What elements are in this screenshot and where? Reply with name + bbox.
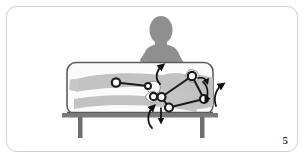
joint-marker-ankle <box>145 83 151 89</box>
figure-number: 5 <box>283 135 289 146</box>
joint-marker-distal-limb-left <box>112 78 120 86</box>
figure-container: 5 <box>0 0 304 158</box>
joint-marker-knee <box>158 93 166 101</box>
left-table-leg <box>78 117 83 138</box>
figure-illustration <box>0 0 304 158</box>
joint-marker-hip <box>165 104 173 112</box>
joint-marker-therapist-lower-hand <box>150 93 157 100</box>
joint-marker-therapist-upper-hand <box>188 72 196 80</box>
table-top-band <box>62 113 218 118</box>
right-table-leg <box>200 117 205 138</box>
